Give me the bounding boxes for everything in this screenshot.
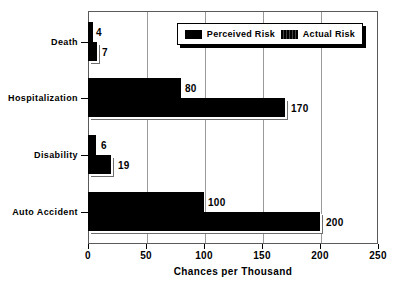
bar-value-death-actual: 7 bbox=[102, 47, 108, 58]
legend-entry-perceived-risk: Perceived Risk bbox=[185, 29, 275, 39]
y-tick-death bbox=[81, 42, 88, 43]
bar-auto-accident-actual bbox=[88, 212, 320, 231]
bar-disability-actual bbox=[88, 155, 111, 174]
bar-value-auto-accident-perceived: 100 bbox=[208, 197, 226, 208]
legend-entry-actual-risk: Actual Risk bbox=[281, 29, 355, 39]
bar-hospitalization-actual bbox=[88, 98, 285, 117]
y-tick-disability bbox=[81, 155, 88, 156]
legend-label-actual-risk: Actual Risk bbox=[303, 29, 355, 39]
x-tick-label-250: 250 bbox=[369, 250, 387, 261]
bar-value-auto-accident-actual: 200 bbox=[326, 217, 344, 228]
bar-value-hospitalization-perceived: 80 bbox=[185, 83, 197, 94]
x-tick-label-100: 100 bbox=[195, 250, 213, 261]
x-tick-50 bbox=[146, 244, 147, 249]
x-axis-title: Chances per Thousand bbox=[88, 266, 378, 277]
hatched-black-swatch-icon bbox=[281, 30, 298, 39]
bar-disability-perceived bbox=[88, 135, 96, 155]
x-tick-0 bbox=[88, 244, 89, 249]
legend: Perceived Risk Actual Risk bbox=[177, 23, 363, 45]
x-tick-label-50: 50 bbox=[140, 250, 152, 261]
legend-label-perceived-risk: Perceived Risk bbox=[207, 29, 275, 39]
bar-value-disability-actual: 19 bbox=[118, 160, 130, 171]
x-tick-150 bbox=[262, 244, 263, 249]
y-tick-label-death: Death bbox=[51, 37, 78, 47]
bar-value-disability-perceived: 6 bbox=[101, 140, 107, 151]
x-tick-250 bbox=[378, 244, 379, 249]
x-tick-200 bbox=[320, 244, 321, 249]
y-tick-auto-accident bbox=[81, 212, 88, 213]
x-tick-label-0: 0 bbox=[85, 250, 91, 261]
bar-value-hospitalization-actual: 170 bbox=[291, 103, 309, 114]
solid-black-swatch-icon bbox=[185, 30, 202, 39]
y-tick-hospitalization bbox=[81, 98, 88, 99]
bar-auto-accident-perceived bbox=[88, 192, 204, 212]
bar-value-death-perceived: 4 bbox=[96, 27, 102, 38]
bar-hospitalization-perceived bbox=[88, 78, 181, 98]
x-tick-100 bbox=[204, 244, 205, 249]
x-tick-label-150: 150 bbox=[253, 250, 271, 261]
bar-death-actual bbox=[88, 42, 97, 61]
y-tick-label-disability: Disability bbox=[34, 150, 78, 160]
x-tick-label-200: 200 bbox=[311, 250, 329, 261]
bar-chart: Death 4 7 Hospitalization 80 170 Disabil… bbox=[0, 0, 399, 284]
bar-death-perceived bbox=[88, 22, 93, 42]
y-tick-label-auto-accident: Auto Accident bbox=[12, 207, 78, 217]
y-tick-label-hospitalization: Hospitalization bbox=[8, 93, 78, 103]
